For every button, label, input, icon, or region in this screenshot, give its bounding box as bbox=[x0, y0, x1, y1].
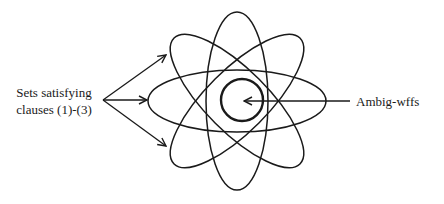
sets-label-line-2: clauses (1)-(3) bbox=[6, 101, 102, 118]
arrow-to-set-bottom bbox=[103, 100, 166, 146]
ambig-wffs-label: Ambig-wffs bbox=[356, 93, 419, 110]
sets-satisfying-label: Sets satisfying clauses (1)-(3) bbox=[6, 84, 102, 118]
sets-label-line-1: Sets satisfying bbox=[6, 84, 102, 101]
arrow-to-set-top bbox=[103, 55, 166, 100]
ambig-wffs-circle bbox=[221, 79, 263, 121]
diagram-canvas: Sets satisfying clauses (1)-(3) Ambig-wf… bbox=[0, 0, 444, 204]
